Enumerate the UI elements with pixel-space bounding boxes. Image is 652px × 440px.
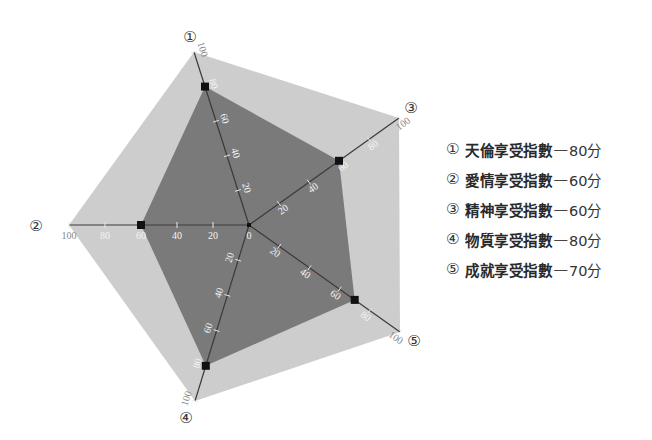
circled-number-4: ④	[446, 230, 459, 248]
data-point-marker-4	[202, 362, 210, 370]
legend-item-4: ④ 物質享受指數 — 80分	[446, 224, 601, 254]
legend-dash: —	[553, 201, 568, 217]
tick-label: 20	[208, 230, 218, 241]
legend-label: 物質享受指數	[465, 229, 552, 250]
legend-score: 80分	[569, 139, 601, 160]
legend-label: 精神享受指數	[465, 199, 552, 220]
circled-number-5: ⑤	[446, 260, 459, 278]
legend-label: 愛情享受指數	[465, 169, 552, 190]
axis-number-5: ⑤	[407, 332, 420, 350]
legend-item-3: ③ 精神享受指數 — 60分	[446, 194, 601, 224]
data-point-marker-2	[137, 221, 145, 229]
legend-dash: —	[553, 261, 568, 277]
circled-number-1: ①	[446, 140, 459, 158]
legend-score: 60分	[569, 169, 601, 190]
data-point-marker-3	[335, 157, 343, 165]
legend-score: 80分	[569, 229, 601, 250]
legend-item-1: ① 天倫享受指數 — 80分	[446, 134, 601, 164]
tick-label: 60	[136, 230, 146, 241]
tick-label: 80	[100, 230, 110, 241]
axis-number-2: ②	[29, 217, 42, 235]
tick-label: 0	[247, 230, 252, 241]
data-point-marker-5	[351, 296, 359, 304]
legend-score: 60分	[569, 199, 601, 220]
legend: ① 天倫享受指數 — 80分 ② 愛情享受指數 — 60分 ③ 精神享受指數 —…	[446, 134, 601, 284]
tick-label: 100	[179, 390, 194, 408]
axis-number-3: ③	[404, 99, 417, 117]
legend-item-5: ⑤ 成就享受指數 — 70分	[446, 254, 601, 284]
tick-label: 100	[62, 230, 77, 241]
legend-score: 70分	[569, 259, 601, 280]
legend-dash: —	[553, 171, 568, 187]
tick-label: 40	[172, 230, 182, 241]
legend-label: 天倫享受指數	[465, 139, 552, 160]
legend-item-2: ② 愛情享受指數 — 60分	[446, 164, 601, 194]
legend-label: 成就享受指數	[465, 259, 552, 280]
circled-number-2: ②	[446, 170, 459, 188]
center-point	[247, 223, 251, 227]
axis-number-4: ④	[179, 409, 192, 427]
data-point-marker-1	[201, 83, 209, 91]
circled-number-3: ③	[446, 200, 459, 218]
axis-number-1: ①	[183, 28, 196, 46]
legend-dash: —	[553, 231, 568, 247]
legend-dash: —	[553, 141, 568, 157]
